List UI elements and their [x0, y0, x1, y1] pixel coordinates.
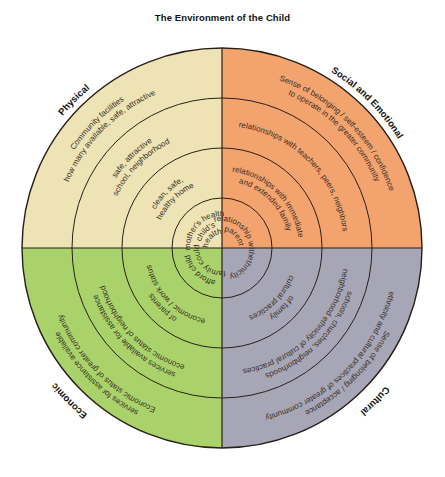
quadrant-cultural: [222, 248, 422, 448]
quadrant-economic: [22, 248, 222, 448]
quadrant-social-emotional: [222, 48, 422, 248]
quadrant-physical: [22, 48, 222, 248]
environment-wheel: Community facilitieshow many available, …: [0, 0, 445, 477]
